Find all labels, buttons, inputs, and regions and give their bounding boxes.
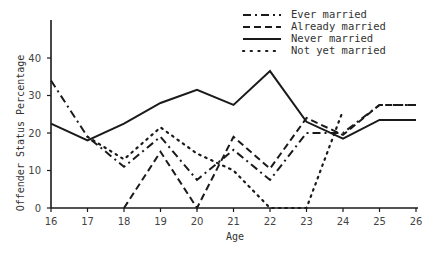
legend-label: Ever married xyxy=(291,8,367,20)
x-tick-label: 25 xyxy=(373,216,386,227)
legend-label: Never married xyxy=(291,32,373,44)
x-tick-label: 21 xyxy=(227,216,240,227)
y-axis-title: Offender Status Percentage xyxy=(15,55,26,212)
x-tick-label: 24 xyxy=(337,216,350,227)
x-tick-label: 18 xyxy=(118,216,131,227)
legend-label: Already married xyxy=(291,20,386,32)
x-tick-label: 19 xyxy=(154,216,167,227)
x-tick-label: 26 xyxy=(410,216,423,227)
y-tick-label: 0 xyxy=(35,203,41,214)
series-line-already-married xyxy=(124,105,416,208)
series-line-not-yet-married xyxy=(88,111,344,209)
legend-label: Not yet married xyxy=(291,44,386,56)
x-tick-label: 17 xyxy=(81,216,94,227)
y-tick-label: 20 xyxy=(28,128,41,139)
y-tick-label: 10 xyxy=(28,165,41,176)
series-line-never-married xyxy=(51,71,416,140)
x-tick-label: 23 xyxy=(300,216,313,227)
line-chart: 0102030401617181920212223242526 Ever mar… xyxy=(0,0,436,255)
x-axis-title: Age xyxy=(226,231,244,242)
series-lines xyxy=(51,71,416,208)
y-tick-label: 40 xyxy=(28,53,41,64)
legend: Ever marriedAlready marriedNever married… xyxy=(243,8,386,56)
y-tick-label: 30 xyxy=(28,90,41,101)
x-tick-label: 20 xyxy=(191,216,204,227)
x-tick-label: 22 xyxy=(264,216,277,227)
x-tick-label: 16 xyxy=(45,216,58,227)
